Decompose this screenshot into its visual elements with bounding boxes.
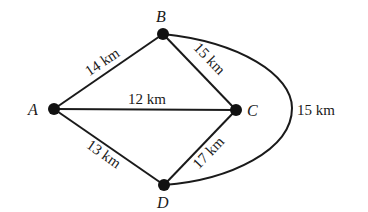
edge-label-b-d: 15 km <box>297 102 335 118</box>
graph-diagram: A B C D 14 km 12 km 13 km 15 km 17 km 15… <box>0 0 368 212</box>
node-b <box>157 28 169 40</box>
edge-label-b-c: 15 km <box>191 39 229 78</box>
edge-label-a-b: 14 km <box>82 44 123 79</box>
node-d <box>158 179 170 191</box>
node-label-b: B <box>156 8 166 25</box>
edge-label-a-c: 12 km <box>128 91 166 107</box>
edge-a-c <box>54 109 236 110</box>
node-label-d: D <box>156 194 169 211</box>
node-label-a: A <box>27 101 38 118</box>
node-label-c: C <box>247 102 258 119</box>
node-a <box>48 103 60 115</box>
node-c <box>230 104 242 116</box>
edge-label-a-d: 13 km <box>84 136 125 171</box>
